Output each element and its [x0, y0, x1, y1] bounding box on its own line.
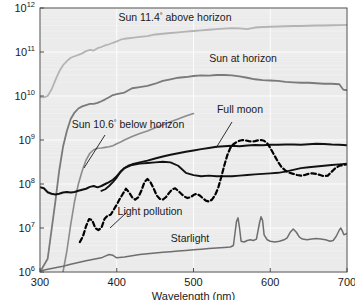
ytick-label: 1011	[15, 44, 35, 58]
series-annotation-label: Starlight	[171, 232, 210, 244]
xtick-label: 700	[338, 276, 355, 288]
x-axis-title: Wavelength (nm)	[152, 290, 235, 300]
ytick-label: 1012	[14, 0, 35, 14]
ytick-label: 108	[19, 176, 35, 190]
spectral-irradiance-chart: 106107108109101010111012300400500600700W…	[0, 0, 355, 300]
series-annotation-label: Sun 10.6° below horizon	[72, 118, 185, 130]
series-annotation-label: Sun 11.4° above horizon	[119, 11, 232, 23]
ytick-label: 109	[19, 132, 35, 146]
series-annotation-label: Light pollution	[118, 205, 183, 217]
xtick-label: 600	[261, 276, 279, 288]
xtick-label: 300	[31, 276, 49, 288]
xtick-label: 400	[108, 276, 126, 288]
ytick-label: 107	[19, 220, 35, 234]
ytick-label: 1010	[14, 88, 35, 102]
series-annotation-label: Full moon	[217, 103, 263, 115]
chart-canvas: 106107108109101010111012300400500600700W…	[0, 0, 355, 300]
series-annotation-label: Sun at horizon	[209, 52, 277, 64]
xtick-label: 500	[184, 276, 202, 288]
